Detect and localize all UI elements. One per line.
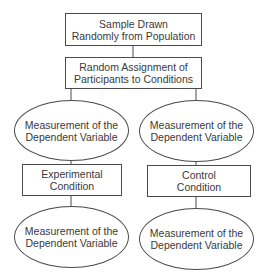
experimental-line1: Experimental: [41, 168, 102, 180]
pretest-left-line2: Dependent Variable: [25, 131, 117, 143]
assignment-line2: Participants to Conditions: [74, 73, 193, 85]
pretest-right-line1: Measurement of the: [150, 119, 243, 131]
random-assignment-box: Random Assignment of Participants to Con…: [65, 57, 202, 89]
pretest-right-line2: Dependent Variable: [150, 131, 242, 143]
control-condition-box: Control Condition: [147, 165, 251, 197]
posttest-left-line2: Dependent Variable: [25, 237, 117, 249]
pretest-left-line1: Measurement of the: [25, 119, 118, 131]
sample-line2: Randomly from Population: [72, 30, 196, 42]
control-line1: Control: [182, 169, 216, 181]
posttest-right-line1: Measurement of the: [150, 227, 243, 239]
experimental-condition-box: Experimental Condition: [22, 164, 122, 196]
posttest-left-ellipse: Measurement of the Dependent Variable: [14, 206, 129, 268]
experimental-line2: Condition: [50, 180, 94, 192]
pretest-right-ellipse: Measurement of the Dependent Variable: [139, 100, 254, 162]
posttest-left-line1: Measurement of the: [25, 225, 118, 237]
posttest-right-ellipse: Measurement of the Dependent Variable: [139, 208, 254, 270]
pretest-left-ellipse: Measurement of the Dependent Variable: [14, 100, 129, 161]
sample-drawn-box: Sample Drawn Randomly from Population: [65, 13, 202, 46]
control-line2: Condition: [177, 181, 221, 193]
posttest-right-line2: Dependent Variable: [150, 239, 242, 251]
assignment-line1: Random Assignment of: [79, 61, 188, 73]
sample-line1: Sample Drawn: [99, 18, 168, 30]
